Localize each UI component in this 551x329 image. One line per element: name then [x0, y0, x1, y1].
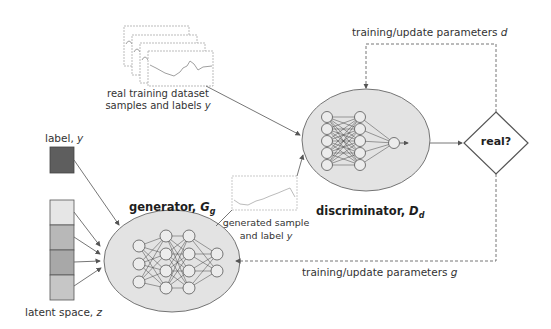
feedback-g-label: training/update parameters g: [302, 266, 457, 278]
generated-sample-icon: [232, 176, 297, 210]
generator-title: generator, Gg: [129, 201, 215, 218]
discriminator-node: [302, 89, 430, 191]
latent-space-vector: [50, 200, 74, 300]
decision-label: real?: [481, 136, 511, 148]
generated-sample-label: generated sample and label y: [223, 216, 310, 242]
real-dataset-label: real training dataset samples and labels…: [105, 88, 210, 112]
feedback-d-label: training/update parameters d: [352, 26, 507, 38]
discriminator-title: discriminator, Dd: [316, 205, 424, 222]
latent-space-caption: latent space, z: [25, 306, 102, 318]
generator-node: [104, 210, 240, 312]
real-dataset-stack-icon: [124, 26, 213, 86]
gan-diagram: [0, 0, 551, 329]
label-y-caption: label, y: [45, 132, 83, 144]
label-y-box: [50, 147, 74, 173]
